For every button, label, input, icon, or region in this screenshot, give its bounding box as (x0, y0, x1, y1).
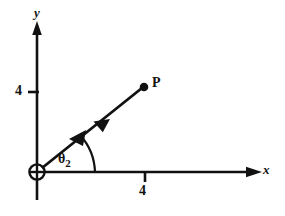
angle-label: θ2 (58, 152, 71, 169)
arrow-right-icon (246, 167, 262, 177)
y-tick-label-4: 4 (15, 84, 22, 98)
figure-canvas: y x 4 4 P θ2 (0, 0, 285, 216)
point-p-dot-icon (140, 83, 149, 92)
arrow-up-icon (32, 21, 42, 35)
x-tick-label-4: 4 (139, 184, 146, 198)
angle-subscript: 2 (65, 157, 71, 169)
point-p-label: P (152, 76, 161, 90)
y-axis-label: y (34, 6, 40, 19)
x-axis-label: x (263, 163, 270, 176)
